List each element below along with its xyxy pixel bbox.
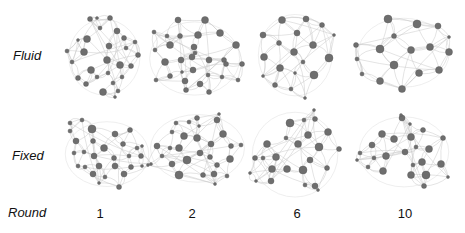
network-node [436,67,443,74]
network-node [197,81,203,87]
network-node [325,129,332,136]
axis-label-round: Round [8,205,46,220]
network-node [195,116,200,121]
network-node [408,47,415,54]
network-edge [263,33,297,35]
network-node [76,76,81,81]
network-node [117,62,124,69]
network-node [169,161,175,167]
network-node [183,156,191,164]
network-node [121,142,126,147]
network-node [421,128,426,133]
network-node [369,142,375,148]
network-node [178,57,184,63]
network-node [236,78,240,82]
network-node [114,96,117,99]
network-node [112,131,118,137]
network-node [152,30,156,34]
network-node [128,128,133,133]
network-node [96,163,102,169]
network-node [217,30,224,37]
network-node [409,123,412,126]
network-node [160,154,164,158]
network-edge [187,134,223,160]
network-node [153,48,157,52]
network-node [229,144,234,149]
network-node [76,164,80,168]
network-edge [402,50,411,89]
network-node [317,189,320,192]
network-node [310,71,318,79]
network-node [390,61,398,69]
network-node [182,78,188,84]
network-node [154,78,158,82]
network-edge [356,26,438,45]
network-edge [318,168,327,190]
network-node [82,150,86,154]
network-node [201,173,206,178]
network-node [264,141,271,148]
network-edge [99,158,114,183]
network-node [91,139,96,144]
network-edge [179,175,215,184]
network-node [83,165,87,169]
network-edge [157,146,215,184]
network-node [227,156,234,163]
network-node [168,74,173,79]
network-node [277,65,284,72]
network-edge [193,64,226,70]
network-node [310,42,317,49]
network-node [202,17,209,24]
network-node [139,154,144,159]
network-node [325,166,330,171]
network-node [284,166,291,173]
network-node [178,34,183,39]
network-node [114,28,120,34]
network-edges [67,15,450,190]
network-node [65,49,69,53]
network-node [294,72,297,75]
network-node [206,73,210,77]
column-label-round-1: 1 [96,206,103,221]
network-node [435,23,441,29]
network-node [72,151,76,155]
row-label-fixed: Fixed [12,148,44,163]
network-node [124,46,128,50]
network-node [220,75,224,79]
network-node [366,165,370,169]
network-edge [383,124,410,171]
column-label-round-6: 6 [293,206,300,221]
network-node [337,147,342,152]
network-node [414,145,418,149]
network-node [422,171,430,179]
network-node [108,16,113,21]
network-node [154,143,160,149]
network-node [135,146,139,150]
network-node [380,168,387,175]
network-node [91,153,97,159]
network-node [187,120,191,124]
network-node [269,166,276,173]
network-edge [222,77,238,80]
network-node [122,36,127,41]
network-node [408,134,415,141]
network-node [441,136,446,141]
network-node [197,150,203,156]
network-node [399,86,406,93]
network-node [402,149,408,155]
network-node [419,159,426,166]
network-edge [416,130,423,147]
network-node [189,54,195,60]
network-node [313,117,318,122]
network-node [129,64,134,69]
network-node [174,121,178,125]
network-node [194,135,201,142]
network-node [170,130,174,134]
network-edge [192,45,236,57]
network-edge [78,152,84,166]
network-node [356,159,359,162]
network-node [303,183,307,187]
network-node [208,155,213,160]
network-edge [170,132,173,148]
network-node [320,23,325,28]
